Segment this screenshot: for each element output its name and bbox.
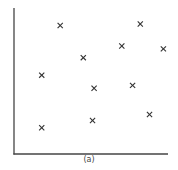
x-marker-icon — [147, 112, 152, 117]
x-marker-icon — [138, 21, 143, 26]
x-marker-icon — [39, 125, 44, 130]
x-marker-icon — [91, 86, 96, 91]
scatter-plot — [0, 0, 178, 170]
x-marker-icon — [90, 118, 95, 123]
x-marker-icon — [81, 55, 86, 60]
x-marker-icon — [161, 46, 166, 51]
data-markers — [39, 21, 166, 130]
x-marker-icon — [58, 23, 63, 28]
x-marker-icon — [130, 83, 135, 88]
figure-caption: (a) — [0, 155, 178, 164]
x-marker-icon — [119, 43, 124, 48]
x-marker-icon — [39, 73, 44, 78]
